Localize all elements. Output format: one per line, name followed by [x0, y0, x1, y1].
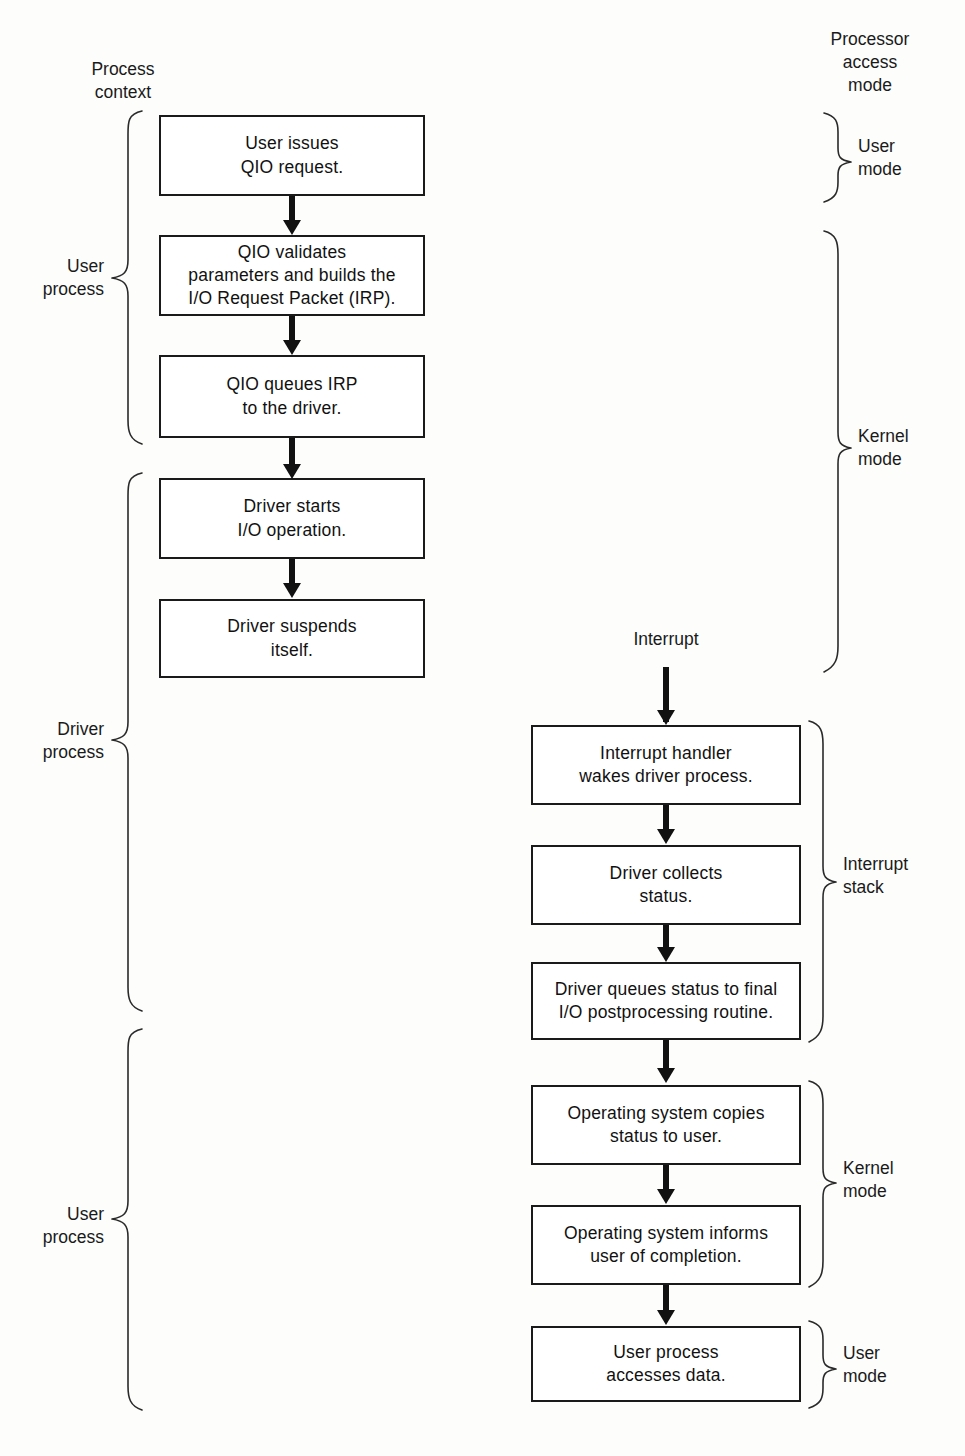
brace-label-user-process-upper: User process	[24, 255, 104, 301]
node-driver-suspends[interactable]: Driver suspends itself.	[159, 599, 425, 678]
node-qio-queues-irp[interactable]: QIO queues IRP to the driver.	[159, 355, 425, 438]
node-os-copies-status[interactable]: Operating system copies status to user.	[531, 1085, 801, 1165]
brace-interrupt-stack	[805, 718, 843, 1048]
brace-label-kernel-mode-top: Kernel mode	[858, 425, 958, 471]
brace-label-user-process-lower: User process	[24, 1203, 104, 1249]
brace-user-mode-top	[820, 110, 858, 206]
brace-label-user-mode-top: User mode	[858, 135, 958, 181]
node-os-informs-user[interactable]: Operating system informs user of complet…	[531, 1205, 801, 1285]
brace-user-process-upper	[108, 108, 146, 448]
processor-access-mode-header: Processor access mode	[800, 28, 940, 96]
node-user-issues-qio[interactable]: User issues QIO request.	[159, 115, 425, 196]
node-driver-queues-status[interactable]: Driver queues status to final I/O postpr…	[531, 962, 801, 1040]
node-user-process-accesses-data[interactable]: User process accesses data.	[531, 1326, 801, 1402]
node-driver-collects-status[interactable]: Driver collects status.	[531, 845, 801, 925]
diagram-canvas: Process context Processor access mode Us…	[0, 0, 965, 1456]
brace-label-driver-process: Driver process	[24, 718, 104, 764]
brace-user-mode-bottom	[805, 1318, 843, 1412]
node-driver-starts-io[interactable]: Driver starts I/O operation.	[159, 478, 425, 559]
brace-kernel-mode-bottom	[805, 1078, 843, 1293]
brace-label-kernel-mode-bottom: Kernel mode	[843, 1157, 953, 1203]
brace-user-process-lower	[108, 1026, 146, 1414]
brace-kernel-mode-top	[820, 228, 858, 678]
node-qio-validates[interactable]: QIO validates parameters and builds the …	[159, 235, 425, 316]
brace-label-user-mode-bottom: User mode	[843, 1342, 953, 1388]
brace-label-interrupt-stack: Interrupt stack	[843, 853, 953, 899]
node-interrupt-handler[interactable]: Interrupt handler wakes driver process.	[531, 725, 801, 805]
process-context-header: Process context	[58, 58, 188, 104]
brace-driver-process	[108, 470, 146, 1015]
interrupt-label: Interrupt	[571, 628, 761, 651]
